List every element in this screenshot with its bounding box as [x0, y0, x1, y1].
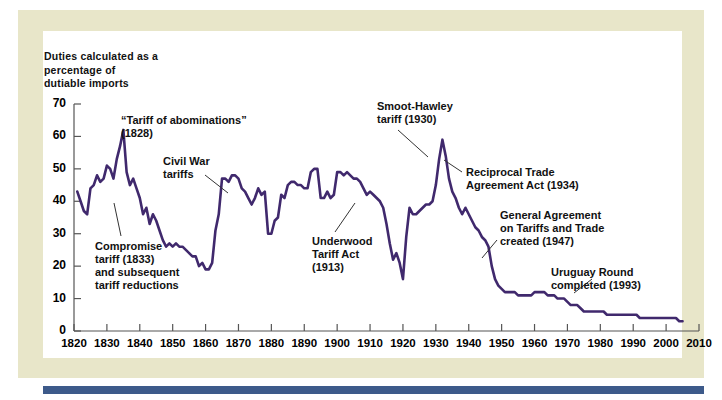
leader-underwood-tariff-act [335, 203, 355, 232]
annotation-gatt-created-line-1: General Agreement [500, 209, 604, 222]
y-tick-label-30: 30 [38, 226, 66, 240]
annotation-gatt-created-line-2: on Tariffs and Trade [500, 222, 604, 235]
leader-smoot-hawley [398, 130, 428, 157]
annotation-smoot-hawley: Smoot-Hawley tariff (1930) [377, 100, 453, 126]
annotation-reciprocal-trade-line-2: Agreement Act (1934) [466, 179, 579, 192]
annotation-compromise-tariff-line-1: Compromise [95, 240, 179, 253]
y-tick-label-0: 0 [38, 323, 66, 337]
annotation-reciprocal-trade: Reciprocal Trade Agreement Act (1934) [466, 166, 579, 192]
y-tick-label-60: 60 [38, 128, 66, 142]
annotation-civil-war-tariffs-line-2: tariffs [163, 168, 210, 181]
annotation-underwood-tariff-act-line-1: Underwood [312, 235, 373, 248]
annotation-compromise-tariff-line-2: tariff (1833) [95, 253, 179, 266]
annotation-tariff-abominations-line-2: (1828) [121, 127, 247, 140]
x-tick-label-2010: 2010 [679, 337, 719, 349]
annotation-gatt-created: General Agreement on Tariffs and Trade c… [500, 209, 604, 248]
y-tick-label-50: 50 [38, 161, 66, 175]
tariff-line-chart: Duties calculated as a percentage of dut… [0, 0, 722, 400]
y-tick-label-20: 20 [38, 258, 66, 272]
annotation-tariff-abominations: “Tariff of abominations” (1828) [121, 114, 247, 140]
annotation-underwood-tariff-act: Underwood Tariff Act (1913) [312, 235, 373, 274]
annotation-underwood-tariff-act-line-2: Tariff Act [312, 248, 373, 261]
annotation-civil-war-tariffs-line-1: Civil War [163, 155, 210, 168]
annotation-tariff-abominations-line-1: “Tariff of abominations” [121, 114, 247, 127]
annotation-uruguay-round-line-2: completed (1993) [551, 279, 641, 292]
leader-compromise-tariff [114, 203, 121, 236]
annotation-smoot-hawley-line-1: Smoot-Hawley [377, 100, 453, 113]
annotation-reciprocal-trade-line-1: Reciprocal Trade [466, 166, 579, 179]
chart-page: Duties calculated as a percentage of dut… [0, 0, 722, 400]
annotation-uruguay-round: Uruguay Round completed (1993) [551, 266, 641, 292]
annotation-uruguay-round-line-1: Uruguay Round [551, 266, 641, 279]
y-tick-label-10: 10 [38, 291, 66, 305]
annotation-smoot-hawley-line-2: tariff (1930) [377, 113, 453, 126]
annotation-underwood-tariff-act-line-3: (1913) [312, 261, 373, 274]
annotation-compromise-tariff: Compromise tariff (1833) and subsequent … [95, 240, 179, 292]
annotation-civil-war-tariffs: Civil War tariffs [163, 155, 210, 181]
y-tick-label-70: 70 [38, 96, 66, 110]
annotation-compromise-tariff-line-4: tariff reductions [95, 279, 179, 292]
y-tick-label-40: 40 [38, 193, 66, 207]
annotation-compromise-tariff-line-3: and subsequent [95, 266, 179, 279]
annotation-gatt-created-line-3: created (1947) [500, 235, 604, 248]
